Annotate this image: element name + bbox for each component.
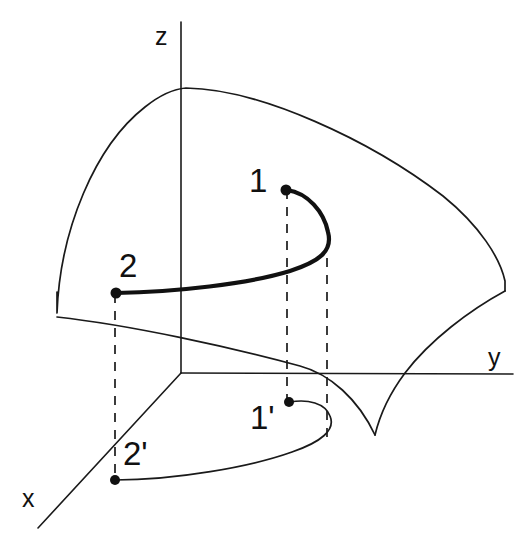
- x-axis-line: [38, 373, 181, 528]
- point-labels-group: 1 2 1' 2': [119, 162, 275, 472]
- trajectory-2-to-1: [116, 190, 329, 293]
- axis-labels-group: z y x: [22, 22, 501, 512]
- point-label-2: 2: [119, 247, 137, 284]
- y-axis-line: [181, 373, 513, 374]
- x-axis-label: x: [22, 484, 35, 512]
- point-label-1: 1: [249, 162, 267, 199]
- endpoint-dot-1-prime: [284, 397, 294, 407]
- z-axis-label: z: [155, 22, 168, 50]
- y-axis-label: y: [488, 343, 501, 371]
- endpoint-dot-2-prime: [110, 475, 120, 485]
- figure-container: 1 2 1' 2' z y x: [0, 0, 531, 539]
- endpoint-dot-2: [111, 288, 122, 299]
- point-label-1-prime: 1': [250, 399, 275, 436]
- surface-lower-right-edge: [375, 291, 505, 435]
- point-label-2-prime: 2': [123, 435, 148, 472]
- diagram-canvas: 1 2 1' 2' z y x: [0, 0, 531, 539]
- endpoint-dot-1: [281, 185, 292, 196]
